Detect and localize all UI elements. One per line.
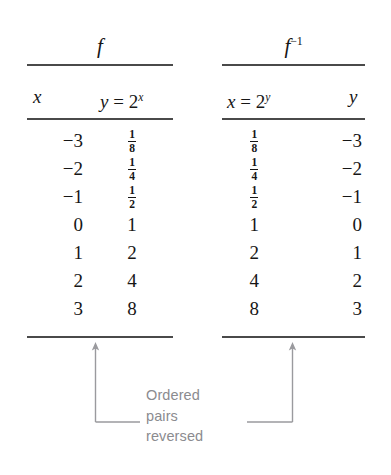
forward-row2-col1-value: −1 xyxy=(63,186,83,208)
forward-row0-col1: −3 xyxy=(27,127,91,155)
left-table-rule-header xyxy=(27,118,173,120)
left-col-header-y-equals: = xyxy=(113,91,124,112)
forward-row2-col2-numerator: 1 xyxy=(128,184,136,196)
inverse-row2-col1-numerator: 1 xyxy=(250,184,258,196)
forward-row1-col2-denominator: 4 xyxy=(128,169,136,182)
forward-row0-col1-value: −3 xyxy=(63,130,83,152)
left-col-header-y: y = 2x xyxy=(100,85,143,114)
inverse-row6-col2-value: 3 xyxy=(353,298,363,320)
table-row: 42 xyxy=(222,267,365,295)
inverse-row6-col1-value: 8 xyxy=(250,298,260,320)
forward-row5-col1: 2 xyxy=(27,267,91,295)
table-title-f-text: f xyxy=(97,34,103,58)
right-table-rule-bottom xyxy=(222,336,365,338)
inverse-row0-col1-fraction: 18 xyxy=(250,128,258,154)
left-table-rule-bottom xyxy=(27,336,173,338)
inverse-row5-col2-value: 2 xyxy=(353,270,363,292)
forward-row5-col1-value: 2 xyxy=(74,270,84,292)
forward-row1-col1: −2 xyxy=(27,155,91,183)
table-row: 18−3 xyxy=(222,127,365,155)
caption-line-2: pairs xyxy=(146,406,266,427)
table-row: 12−1 xyxy=(222,183,365,211)
table-row: 10 xyxy=(222,211,365,239)
caption-line-1: Ordered xyxy=(146,385,266,406)
connector-caption: Ordered pairs reversed xyxy=(146,385,266,447)
forward-row6-col2: 8 xyxy=(91,295,173,323)
forward-row3-col1: 0 xyxy=(27,211,91,239)
forward-row3-col2-value: 1 xyxy=(127,214,137,236)
table-title-f: f xyxy=(27,28,173,59)
right-table-rule-header xyxy=(222,118,365,120)
forward-row2-col1: −1 xyxy=(27,183,91,211)
right-col-header-x-base: 2 xyxy=(256,91,266,112)
table-row: 12 xyxy=(27,239,173,267)
right-col-header-x-main: x xyxy=(227,91,235,112)
right-col-header-x: x = 2y xyxy=(227,85,270,114)
table-row: 83 xyxy=(222,295,365,323)
left-col-header-x: x xyxy=(33,85,41,109)
inverse-row5-col1: 4 xyxy=(222,267,287,295)
inverse-row3-col1-value: 1 xyxy=(250,214,260,236)
forward-row4-col1: 1 xyxy=(27,239,91,267)
inverse-row0-col1-numerator: 1 xyxy=(250,128,258,140)
figure-root: f x y = 2x −318−214−11201122438 f−1 x = … xyxy=(0,0,391,475)
inverse-row3-col1: 1 xyxy=(222,211,287,239)
inverse-row6-col2: 3 xyxy=(287,295,365,323)
right-col-header-y-text: y xyxy=(349,86,357,107)
forward-row2-col2-fraction: 12 xyxy=(128,184,136,210)
left-col-header-y-exponent: x xyxy=(138,91,143,103)
inverse-row1-col1-fraction: 14 xyxy=(250,156,258,182)
forward-row4-col2: 2 xyxy=(91,239,173,267)
left-col-header-x-text: x xyxy=(33,86,41,107)
table-title-f-inverse-exponent: −1 xyxy=(290,34,302,48)
table-row: −318 xyxy=(27,127,173,155)
forward-row1-col2-fraction: 14 xyxy=(128,156,136,182)
left-col-header-y-base: 2 xyxy=(129,91,139,112)
inverse-row1-col1-numerator: 1 xyxy=(250,156,258,168)
right-col-header-x-exponent: y xyxy=(265,91,270,103)
inverse-row0-col2-value: −3 xyxy=(342,130,362,152)
forward-row5-col2: 4 xyxy=(91,267,173,295)
forward-row6-col2-value: 8 xyxy=(127,298,137,320)
caption-line-3: reversed xyxy=(146,426,266,447)
inverse-row0-col2: −3 xyxy=(287,127,365,155)
forward-row4-col2-value: 2 xyxy=(127,242,137,264)
inverse-row0-col1-denominator: 8 xyxy=(250,141,258,154)
forward-row2-col2-denominator: 2 xyxy=(128,197,136,210)
table-row: 38 xyxy=(27,295,173,323)
inverse-row4-col1: 2 xyxy=(222,239,287,267)
forward-row2-col2: 12 xyxy=(91,183,173,211)
right-table-body: 18−314−212−110214283 xyxy=(222,127,365,323)
forward-row1-col2-numerator: 1 xyxy=(128,156,136,168)
table-title-f-inverse: f−1 xyxy=(222,28,365,59)
forward-row1-col2: 14 xyxy=(91,155,173,183)
inverse-row5-col1-value: 4 xyxy=(250,270,260,292)
inverse-row1-col1-denominator: 4 xyxy=(250,169,258,182)
inverse-row4-col1-value: 2 xyxy=(250,242,260,264)
inverse-row2-col1-denominator: 2 xyxy=(250,197,258,210)
forward-row0-col2-denominator: 8 xyxy=(128,141,136,154)
right-col-header-y: y xyxy=(349,85,357,109)
inverse-row1-col2: −2 xyxy=(287,155,365,183)
inverse-row2-col1-fraction: 12 xyxy=(250,184,258,210)
forward-row0-col2: 18 xyxy=(91,127,173,155)
table-row: 14−2 xyxy=(222,155,365,183)
forward-row5-col2-value: 4 xyxy=(127,270,137,292)
forward-row6-col1-value: 3 xyxy=(74,298,84,320)
inverse-row2-col1: 12 xyxy=(222,183,287,211)
table-row: −112 xyxy=(27,183,173,211)
forward-row3-col2: 1 xyxy=(91,211,173,239)
left-table-rule-top xyxy=(27,64,173,66)
inverse-row3-col2: 0 xyxy=(287,211,365,239)
forward-row3-col1-value: 0 xyxy=(74,214,84,236)
inverse-row2-col2-value: −1 xyxy=(342,186,362,208)
left-col-header-y-main: y xyxy=(100,91,108,112)
forward-row0-col2-numerator: 1 xyxy=(128,128,136,140)
table-row: 21 xyxy=(222,239,365,267)
forward-row6-col1: 3 xyxy=(27,295,91,323)
table-row: 24 xyxy=(27,267,173,295)
right-col-header-x-equals: = xyxy=(240,91,251,112)
inverse-row2-col2: −1 xyxy=(287,183,365,211)
left-arrow-icon xyxy=(92,342,140,422)
inverse-row1-col1: 14 xyxy=(222,155,287,183)
